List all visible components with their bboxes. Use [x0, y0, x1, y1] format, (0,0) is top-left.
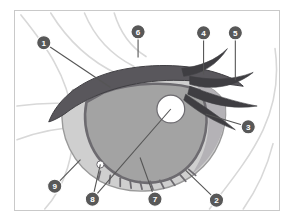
callout-circle-8 — [85, 192, 99, 206]
callout-circle-1 — [37, 36, 51, 50]
callout-circle-6 — [131, 25, 145, 39]
callout-badge-8[interactable]: 8 — [85, 192, 99, 206]
callout-circle-9 — [48, 179, 62, 193]
callout-circle-5 — [228, 26, 242, 40]
hair-strand-8 — [243, 144, 273, 209]
secondary-highlight-dot — [97, 161, 104, 168]
callout-circle-7 — [148, 192, 162, 206]
callout-badge-2[interactable]: 2 — [209, 193, 223, 207]
figure-frame: 123456789 — [14, 10, 280, 211]
callout-circle-2 — [209, 193, 223, 207]
callout-circle-3 — [241, 120, 255, 134]
callout-badge-5[interactable]: 5 — [228, 26, 242, 40]
eye-diagram-svg: 123456789 — [15, 11, 279, 210]
lower-lash-4 — [130, 180, 131, 188]
callout-circle-4 — [196, 26, 210, 40]
callout-badge-4[interactable]: 4 — [196, 26, 210, 40]
callout-badge-9[interactable]: 9 — [48, 179, 62, 193]
callout-badge-1[interactable]: 1 — [37, 36, 51, 50]
callout-badge-3[interactable]: 3 — [241, 120, 255, 134]
screenshot-root: 123456789 — [0, 0, 296, 222]
hair-strand-2 — [51, 13, 118, 74]
callout-badge-6[interactable]: 6 — [131, 25, 145, 39]
callout-badge-7[interactable]: 7 — [148, 192, 162, 206]
